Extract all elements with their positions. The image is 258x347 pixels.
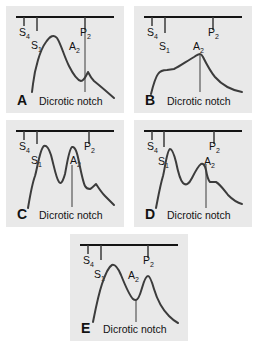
- panel-c-letter: C: [17, 206, 27, 222]
- panel-b-label-a2: A2: [193, 40, 204, 54]
- panel-d-letter: D: [145, 206, 155, 222]
- panel-c-label-s4: S4: [19, 140, 30, 154]
- panel-b-waveform: [151, 54, 242, 94]
- panel-e-caption: Dicrotic notch: [103, 323, 167, 335]
- panel-b-label-p2: P2: [208, 26, 219, 40]
- panel-b-letter: B: [145, 92, 155, 108]
- panel-a-label-a2: A2: [69, 40, 80, 54]
- panel-e-label-a2: A2: [128, 269, 139, 283]
- panel-d-caption: Dicrotic notch: [167, 209, 231, 221]
- panel-d-label-p2: P2: [209, 140, 220, 154]
- panel-e-label-p2: P2: [143, 254, 154, 268]
- panel-d-waveform: [156, 149, 242, 208]
- panel-a: S4 S1 P2 A2 A Dicrotic notch: [6, 6, 124, 113]
- panel-d-label-s4: S4: [147, 140, 158, 154]
- panel-b-caption: Dicrotic notch: [167, 95, 231, 107]
- panel-e-letter: E: [81, 320, 90, 336]
- panel-c-label-p2: P2: [84, 140, 95, 154]
- arterial-pulse-waveform-figure: S4 S1 P2 A2 A Dicrotic notch S4: [0, 0, 258, 347]
- panel-e-label-s4: S4: [83, 254, 94, 268]
- panel-b-label-s1: S1: [159, 40, 170, 54]
- panel-d: S4 S1 P2 A2 D Dicrotic notch: [134, 120, 252, 227]
- panel-e: S4 S1 P2 A2 E Dicrotic notch: [70, 234, 188, 341]
- panel-a-label-s4: S4: [19, 26, 30, 40]
- panel-b: S4 S1 P2 A2 B Dicrotic notch: [134, 6, 252, 113]
- panel-c-caption: Dicrotic notch: [39, 209, 103, 221]
- panel-c: S4 S1 P2 A2 C Dicrotic notch: [6, 120, 124, 227]
- panel-a-letter: A: [17, 92, 27, 108]
- panel-a-caption: Dicrotic notch: [39, 95, 103, 107]
- panel-b-label-s4: S4: [147, 26, 158, 40]
- panel-a-label-p2: P2: [80, 26, 91, 40]
